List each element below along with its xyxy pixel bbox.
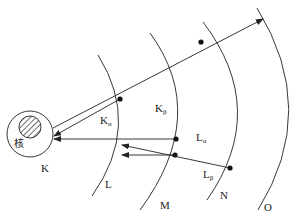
k-alpha-label: Kα: [100, 114, 112, 128]
shell-label-o: O: [264, 201, 272, 213]
shell-label-m: M: [160, 199, 170, 211]
electron-dot: [117, 96, 122, 101]
atomic-shell-diagram: 核 K L M N O Kα Kβ Lα Lβ: [0, 0, 292, 217]
nucleus: [19, 116, 41, 138]
k-beta-label: Kβ: [155, 102, 167, 116]
shell-label-k: K: [41, 162, 49, 174]
l-alpha-label: Lα: [196, 131, 207, 145]
l-beta-arrow: [122, 145, 230, 168]
l-beta-label: Lβ: [203, 168, 214, 182]
electron-dot: [173, 136, 178, 141]
shell-label-n: N: [220, 189, 228, 201]
k-alpha-arrow: [54, 99, 120, 136]
m-shell-arc: [140, 33, 178, 210]
electron-dot: [198, 39, 203, 44]
nucleus-label: 核: [14, 137, 24, 149]
electron-dot: [227, 165, 232, 170]
shell-label-l: L: [105, 178, 112, 190]
o-shell-arc: [257, 8, 289, 210]
